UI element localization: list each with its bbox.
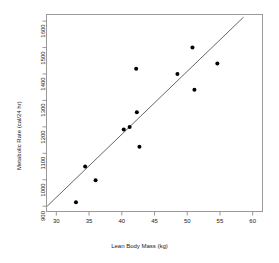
- y-axis-tick-label: 900: [40, 206, 46, 226]
- y-axis-tick-label: 1100: [40, 153, 46, 173]
- data-point: [192, 88, 196, 92]
- data-point: [137, 145, 141, 149]
- data-point: [135, 110, 139, 114]
- x-axis-tick-label: 60: [245, 218, 261, 224]
- x-axis-tick-label: 35: [81, 218, 97, 224]
- regression-line: [47, 17, 243, 206]
- data-point: [134, 67, 138, 71]
- y-axis-title-wrapper: Metabolic Rate (cal/24 hr): [8, 0, 18, 263]
- data-point: [190, 46, 194, 50]
- x-axis-tick-label: 40: [114, 218, 130, 224]
- y-axis-tick-label: 1000: [40, 180, 46, 200]
- data-point: [74, 200, 78, 204]
- y-axis-tick-label: 1600: [40, 21, 46, 41]
- data-point: [94, 178, 98, 182]
- y-axis-tick-label: 1200: [40, 127, 46, 147]
- x-axis-tick-label: 30: [48, 218, 64, 224]
- data-point: [128, 125, 132, 129]
- x-axis-title: Lean Body Mass (kg): [0, 243, 279, 249]
- x-axis-tick-label: 45: [147, 218, 163, 224]
- x-axis-tick-label: 50: [179, 218, 195, 224]
- plot-frame: [47, 15, 263, 212]
- y-axis-tick-label: 1400: [40, 74, 46, 94]
- data-point: [83, 165, 87, 169]
- y-axis-title: Metabolic Rate (cal/24 hr): [16, 101, 22, 170]
- scatter-plot-figure: 3035404550556090010001100120013001400150…: [0, 0, 279, 263]
- y-axis-tick-label: 1500: [40, 48, 46, 68]
- y-axis-tick-label: 1300: [40, 100, 46, 120]
- data-point: [122, 128, 126, 132]
- data-point: [215, 61, 219, 65]
- x-axis-tick-label: 55: [212, 218, 228, 224]
- data-point: [175, 72, 179, 76]
